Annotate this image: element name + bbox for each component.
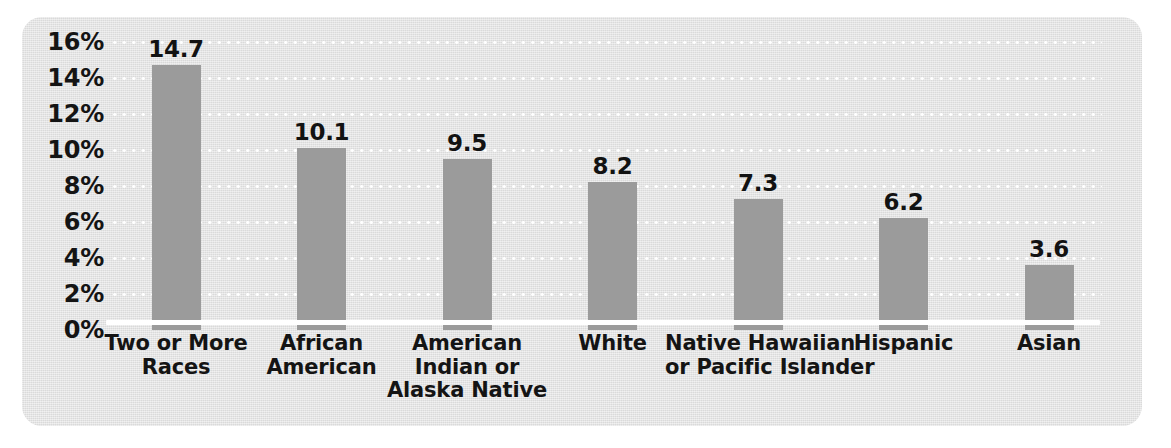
y-axis-tick-label: 12% bbox=[36, 102, 104, 126]
x-axis-category-label-line: or Pacific Islander bbox=[665, 356, 851, 380]
x-axis-category-label-line: Alaska Native bbox=[374, 379, 560, 403]
y-axis-tick-label: 14% bbox=[36, 66, 104, 90]
bar-value-label: 10.1 bbox=[267, 121, 377, 144]
bar-value-label: 14.7 bbox=[121, 38, 231, 61]
y-axis-tick-label: 8% bbox=[36, 174, 104, 198]
y-axis: 0%2%4%6%8%10%12%14%16% bbox=[30, 42, 104, 330]
gridline bbox=[110, 149, 1102, 152]
y-axis-tick-label: 2% bbox=[36, 282, 104, 306]
x-axis-category-label-line: Indian or bbox=[374, 356, 560, 380]
y-axis-tick-label: 10% bbox=[36, 138, 104, 162]
bar-value-label: 3.6 bbox=[994, 238, 1104, 261]
bar-value-label: 7.3 bbox=[703, 172, 813, 195]
x-axis-line bbox=[106, 320, 1100, 325]
bar-value-label: 6.2 bbox=[849, 191, 959, 214]
y-axis-tick-label: 16% bbox=[36, 30, 104, 54]
x-axis-category-label-line: Asian bbox=[956, 332, 1142, 356]
y-axis-tick-label: 6% bbox=[36, 210, 104, 234]
bar-chart: 0%2%4%6%8%10%12%14%16% 14.710.19.58.27.3… bbox=[0, 0, 1171, 448]
plot-area: 14.710.19.58.27.36.23.6 bbox=[110, 42, 1102, 330]
bar-value-label: 8.2 bbox=[558, 155, 668, 178]
x-axis-category-label: Asian bbox=[956, 332, 1142, 356]
bar-value-label: 9.5 bbox=[412, 132, 522, 155]
y-axis-tick-label: 4% bbox=[36, 246, 104, 270]
gridline bbox=[110, 41, 1102, 44]
bar[interactable] bbox=[734, 199, 783, 330]
gridline bbox=[110, 113, 1102, 116]
bar[interactable] bbox=[297, 148, 346, 330]
bar[interactable] bbox=[443, 159, 492, 330]
bar[interactable] bbox=[588, 182, 637, 330]
bar[interactable] bbox=[879, 218, 928, 330]
gridline bbox=[110, 77, 1102, 80]
bar[interactable] bbox=[152, 65, 201, 330]
